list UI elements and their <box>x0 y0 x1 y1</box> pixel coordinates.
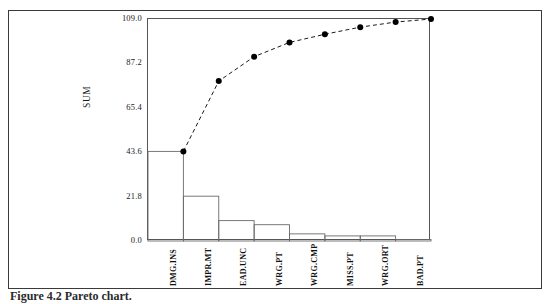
figure-caption: Figure 4.2 Pareto chart. <box>10 289 132 304</box>
cumulative-marker <box>287 39 293 45</box>
y-axis-tick-label: 43.6 <box>126 146 142 156</box>
plot-area <box>147 18 430 240</box>
y-axis-tick-labels: 109.087.265.443.621.80.0 <box>108 18 142 240</box>
cumulative-marker <box>251 54 257 60</box>
x-axis-category-label: EAD.UNC <box>239 248 248 286</box>
y-axis-tick-label: 87.2 <box>126 57 142 67</box>
y-axis-title: SUM <box>82 86 92 108</box>
y-axis-tick-label: 21.8 <box>126 191 142 201</box>
cumulative-marker <box>357 24 363 30</box>
x-axis-category-label: WRG.ORT <box>381 245 390 286</box>
cumulative-line-group <box>183 19 431 151</box>
y-axis-tick-label: 0.0 <box>131 235 142 245</box>
x-axis-category-label: MISS.PT <box>346 252 355 286</box>
x-axis-category-label: BAD.PT <box>416 255 425 286</box>
cumulative-marker <box>216 78 222 84</box>
bar <box>219 221 254 241</box>
x-axis-category-label: WRG.PT <box>275 252 284 286</box>
bar <box>254 225 289 241</box>
bars-group <box>148 151 431 241</box>
cumulative-line <box>183 19 431 151</box>
bar <box>290 234 325 241</box>
cumulative-marker <box>180 148 186 154</box>
plot-svg <box>148 19 431 241</box>
cumulative-markers-group <box>180 16 434 154</box>
x-axis-category-label: IMPR.MT <box>204 248 213 286</box>
x-axis-category-label: WRG.CMP <box>310 244 319 286</box>
bar <box>325 236 360 241</box>
cumulative-marker <box>428 16 434 22</box>
x-axis-category-label: DMG.INS <box>169 249 178 286</box>
bar <box>183 196 218 241</box>
y-axis-tick-label: 109.0 <box>122 13 142 23</box>
x-axis-category-labels: DMG.INSIMPR.MTEAD.UNCWRG.PTWRG.CMPMISS.P… <box>147 242 430 288</box>
cumulative-marker <box>322 31 328 37</box>
cumulative-marker <box>393 19 399 25</box>
y-axis-tick-label: 65.4 <box>126 102 142 112</box>
bar <box>360 236 395 241</box>
bar <box>148 151 183 241</box>
bar <box>396 240 431 241</box>
